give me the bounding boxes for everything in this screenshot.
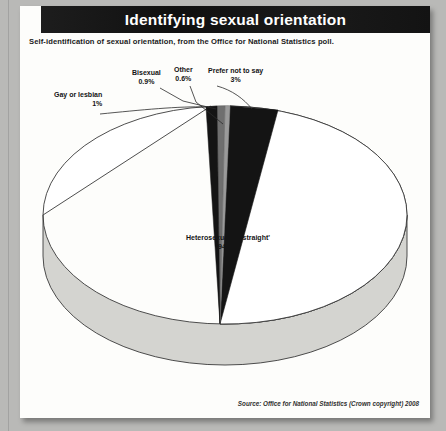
pie-chart: Gay or lesbian 1% Bisexual 0.9% Other 0.…: [20, 6, 430, 418]
label-bisexual-name: Bisexual: [132, 69, 161, 76]
label-gay-or-lesbian: Gay or lesbian 1%: [54, 90, 102, 108]
label-gay-name: Gay or lesbian: [54, 91, 102, 98]
label-heterosexual: Heterosexual or 'straight' 94.4%: [148, 233, 308, 251]
label-bisexual: Bisexual 0.9%: [132, 68, 161, 86]
source-note: Source: Office for National Statistics (…: [238, 400, 419, 407]
label-prefer-pct: 3%: [208, 75, 263, 84]
label-other: Other 0.6%: [174, 65, 193, 83]
label-prefer-not-to-say: Prefer not to say 3%: [208, 66, 263, 84]
page-gutter-rule: [8, 0, 9, 431]
label-bisexual-pct: 0.9%: [132, 77, 161, 86]
label-other-pct: 0.6%: [174, 74, 193, 83]
label-hetero-name: Heterosexual or 'straight': [186, 234, 270, 241]
label-gay-pct: 1%: [54, 99, 102, 108]
chart-panel: Identifying sexual orientation Self-iden…: [20, 6, 430, 418]
label-other-name: Other: [174, 66, 193, 73]
label-hetero-pct: 94.4%: [148, 242, 308, 251]
leader-line-bisexual: [160, 88, 216, 109]
leader-line-prefer: [217, 86, 252, 109]
label-prefer-name: Prefer not to say: [208, 67, 263, 74]
